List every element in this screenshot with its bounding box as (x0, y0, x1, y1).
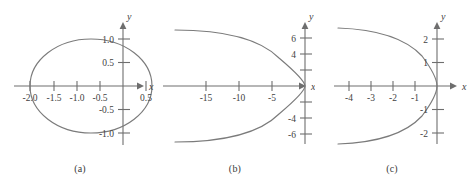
y-axis-label-c: y (440, 11, 446, 22)
y-ticklabel-b-0: 6 (291, 34, 296, 44)
x-ticklabel-b-1: -10 (233, 93, 246, 103)
chart-panel-a: -2.0 -1.5 -1.0 -0.5 0.5 1.0 0.5 -0.5 -1.… (0, 0, 160, 176)
x-axis-label-c: x (461, 81, 467, 92)
x-ticklabel-a-2: -1.0 (69, 93, 84, 103)
y-ticklabel-c-0: 2 (423, 35, 428, 45)
y-axis-arrow-c (434, 22, 441, 29)
y-ticklabel-b-3: -6 (288, 130, 296, 140)
figure-root: -2.0 -1.5 -1.0 -0.5 0.5 1.0 0.5 -0.5 -1.… (0, 0, 472, 176)
y-ticklabel-a-1: 0.5 (102, 58, 114, 68)
y-ticklabel-a-3: -1.0 (99, 129, 114, 139)
x-ticklabel-b-0: -15 (200, 93, 213, 103)
x-ticklabel-a-4: 0.5 (140, 93, 152, 103)
x-ticklabel-c-1: -3 (367, 93, 375, 103)
x-axis-label-a: x (148, 81, 154, 92)
x-axis-arrow-c (450, 83, 457, 90)
caption-b: (b) (155, 163, 315, 174)
caption-a: (a) (0, 163, 160, 174)
y-ticklabel-c-3: -2 (420, 129, 428, 139)
y-axis-arrow-a (120, 22, 127, 29)
chart-b-svg: -15 -10 -5 6 4 -4 -6 x y (155, 0, 315, 150)
x-ticklabel-a-0: -2.0 (22, 93, 37, 103)
chart-panel-c: -4 -3 -2 -1 2 1 -1 -2 x y (c) (312, 0, 472, 176)
y-ticklabel-b-1: 4 (291, 50, 296, 60)
x-ticklabel-b-2: -5 (268, 93, 276, 103)
y-ticklabel-a-2: -0.5 (99, 105, 114, 115)
x-ticklabel-a-1: -1.5 (46, 93, 61, 103)
chart-c-svg: -4 -3 -2 -1 2 1 -1 -2 x y (312, 0, 472, 150)
x-ticklabel-c-3: -1 (411, 93, 419, 103)
y-ticklabel-b-2: -4 (288, 114, 296, 124)
y-ticklabel-c-1: 1 (423, 58, 428, 68)
y-ticklabel-a-0: 1.0 (102, 35, 114, 45)
y-axis-label-a: y (126, 11, 132, 22)
y-ticklabel-c-2: -1 (420, 105, 428, 115)
x-ticklabel-a-3: -0.5 (92, 93, 107, 103)
x-ticklabel-c-0: -4 (345, 93, 353, 103)
x-axis-arrow-a (137, 83, 144, 90)
caption-c: (c) (312, 163, 472, 174)
chart-a-svg: -2.0 -1.5 -1.0 -0.5 0.5 1.0 0.5 -0.5 -1.… (0, 0, 160, 150)
chart-panel-b: -15 -10 -5 6 4 -4 -6 x y (b) (155, 0, 315, 176)
x-ticklabel-c-2: -2 (389, 93, 397, 103)
y-axis-arrow-b (302, 22, 309, 29)
